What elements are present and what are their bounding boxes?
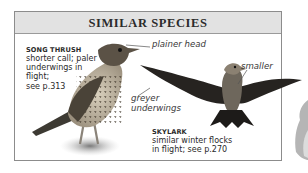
skylark-desc-line: in flight; see p.270 [152, 145, 232, 154]
annotation-greyer-underwings: greyer underwings [131, 94, 181, 113]
skylark-name: SKYLARK [152, 128, 232, 136]
annotation-underwings-line: underwings [131, 103, 181, 113]
skylark-desc-line: similar winter flocks [152, 136, 232, 145]
skylark-info: SKYLARK similar winter flocks in flight;… [152, 128, 232, 154]
partial-bird-illustration [294, 100, 308, 162]
annotation-plainer-head: plainer head [152, 40, 206, 50]
annotation-smaller: smaller [241, 62, 273, 72]
annotation-greyer-line: greyer [131, 93, 159, 103]
